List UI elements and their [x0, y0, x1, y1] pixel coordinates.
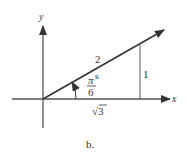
x-axis-label: x: [171, 93, 177, 104]
hypotenuse-vector: [43, 30, 164, 99]
figure-caption: b.: [86, 138, 95, 150]
opposite-label: 1: [143, 68, 149, 80]
y-axis-label: y: [38, 11, 44, 22]
hypotenuse-label: 2: [95, 53, 101, 65]
angle-label-numerator: π: [88, 74, 94, 86]
triangle-diagram: y x 2 1 π R 6 √3 b.: [0, 0, 188, 162]
angle-label-denominator: 6: [88, 86, 94, 98]
adjacent-label: √3: [92, 105, 104, 117]
angle-label-superscript: R: [95, 74, 99, 80]
angle-arc: [72, 82, 76, 99]
